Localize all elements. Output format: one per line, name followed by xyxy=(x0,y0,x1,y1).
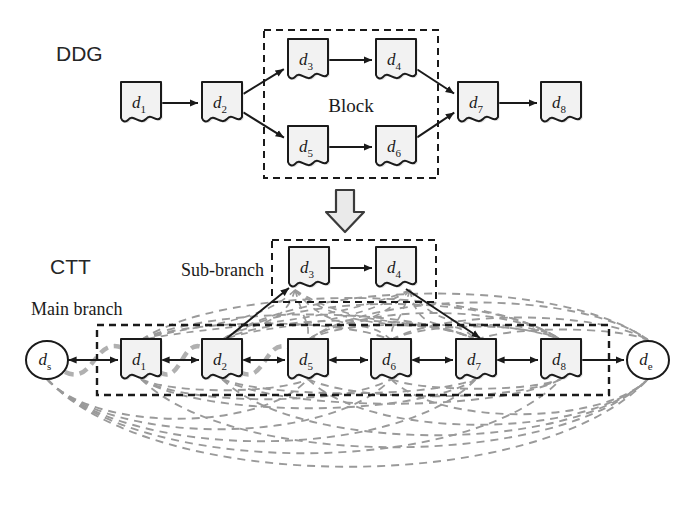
node-d5: d5 xyxy=(288,339,330,380)
node-d1: d1 xyxy=(121,82,163,123)
dependency-arc xyxy=(141,379,476,408)
node-d4: d4 xyxy=(376,39,418,80)
ddg-edge-d4-d7 xyxy=(417,69,454,93)
dependency-arc xyxy=(222,294,648,341)
node-d2: d2 xyxy=(202,82,244,123)
ddg-section-label: DDG xyxy=(56,42,103,65)
ctt-section-label: CTT xyxy=(50,255,91,278)
node-d8: d8 xyxy=(541,339,583,380)
node-d8: d8 xyxy=(541,82,583,123)
down-arrow-icon xyxy=(326,190,364,232)
node-d1: d1 xyxy=(121,339,163,380)
figure-root: d1d2d3d4d5d6d7d8 dsded1d2d5d6d7d8d3d4 Bl… xyxy=(0,0,690,506)
node-ds: ds xyxy=(26,341,68,379)
node-d3: d3 xyxy=(288,39,330,80)
node-d4: d4 xyxy=(376,247,418,288)
dependency-arc xyxy=(47,379,476,441)
node-de: de xyxy=(627,341,669,379)
node-d7: d7 xyxy=(458,82,500,123)
ddg-edge-d6-d7 xyxy=(417,113,454,138)
ddg-layer: d1d2d3d4d5d6d7d8 xyxy=(121,30,583,232)
dependency-arc xyxy=(391,327,561,341)
node-d7: d7 xyxy=(456,339,498,380)
dependency-edge-layer xyxy=(47,290,648,467)
dependency-arc xyxy=(308,303,648,341)
sub-branch-label: Sub-branch xyxy=(181,260,264,280)
main-branch-label: Main branch xyxy=(31,299,122,319)
node-d6: d6 xyxy=(371,339,413,380)
ddg-block-label: Block xyxy=(328,95,374,116)
node-d5: d5 xyxy=(288,126,330,167)
node-d2: d2 xyxy=(202,339,244,380)
node-d6: d6 xyxy=(376,126,418,167)
node-d3: d3 xyxy=(289,247,331,288)
dependency-arc xyxy=(47,379,648,467)
diagram-canvas: d1d2d3d4d5d6d7d8 dsded1d2d5d6d7d8d3d4 Bl… xyxy=(0,0,690,506)
